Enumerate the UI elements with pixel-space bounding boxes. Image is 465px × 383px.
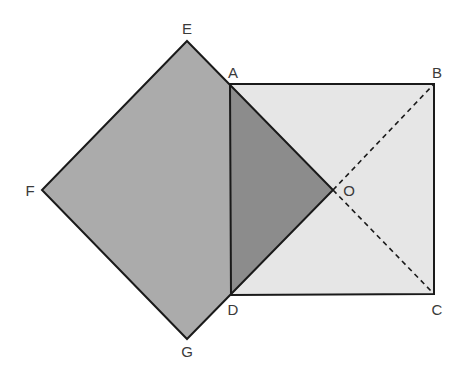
label-o: O [343,182,355,199]
label-d: D [228,301,239,318]
label-e: E [182,20,192,37]
geometry-diagram: E A B F O D C G [0,0,465,383]
label-g: G [181,343,193,360]
label-b: B [432,64,442,81]
label-c: C [432,301,443,318]
label-a: A [228,64,238,81]
label-f: F [25,182,34,199]
